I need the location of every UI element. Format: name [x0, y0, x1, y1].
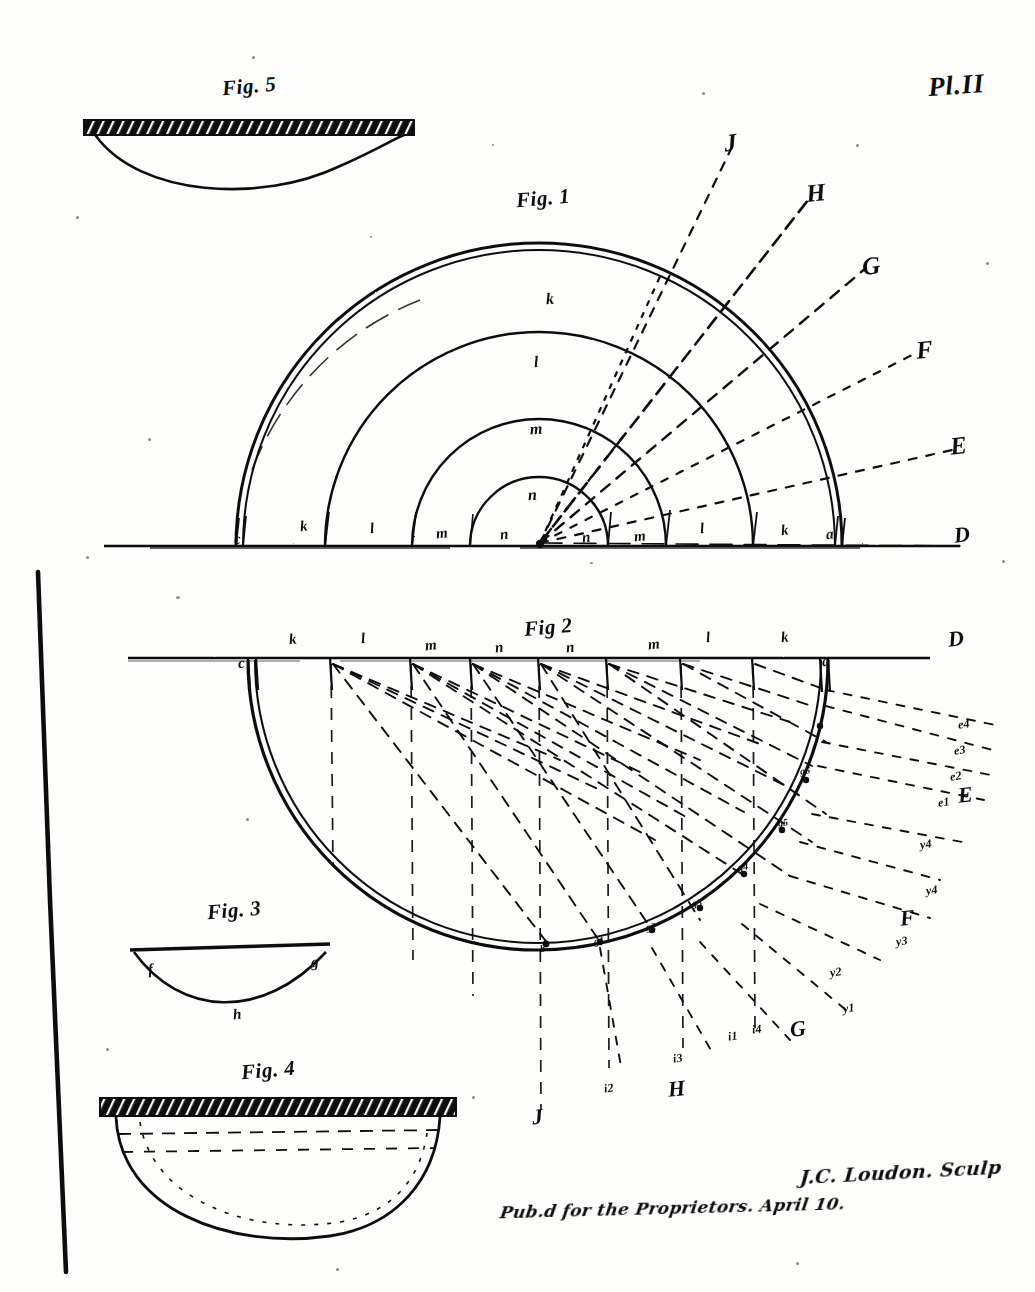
paper-speck — [76, 216, 79, 219]
paper-speck — [176, 596, 180, 599]
plate-edge-rule — [38, 572, 66, 1272]
fig2-point-y1: y1 — [842, 1001, 855, 1014]
fig1-zone-n: n — [527, 487, 537, 504]
fig2-point-y3: y3 — [895, 934, 908, 947]
fig5-title: Fig. 5 — [221, 74, 277, 100]
fig4-title: Fig. 4 — [240, 1058, 296, 1084]
fig2-point-e4: e4 — [957, 717, 970, 730]
fig2-top-c: c — [237, 656, 245, 672]
paper-speck — [86, 556, 89, 559]
fig1-ray-label-h: H — [805, 179, 827, 206]
fig2-point-y2: y2 — [829, 965, 842, 978]
paper-speck — [590, 562, 593, 564]
fig1-zone-m: m — [529, 421, 543, 438]
paper-speck — [702, 92, 705, 95]
fig1-ray-label-e: E — [949, 432, 968, 459]
paper-speck — [246, 818, 249, 821]
paper-speck — [856, 144, 859, 147]
engraved-plate: Pl.II Fig. 5 Fig. 1 k l m n c k l m n n … — [0, 0, 1035, 1292]
fig2-point-y4: y4 — [925, 883, 938, 896]
fig2-ray-label-g: G — [789, 1017, 807, 1041]
paper-speck — [492, 144, 494, 146]
fig2-top-m-right: m — [647, 636, 660, 652]
fig2-arc-point-g3: g3 — [691, 897, 702, 908]
fig2-top-k-right: k — [780, 630, 789, 646]
fig3-drawing — [130, 944, 330, 1002]
fig2-ray-label-f: F — [899, 906, 916, 929]
fig1-base-n-right: n — [581, 530, 591, 546]
fig2-ray-label-j: J — [531, 1105, 544, 1128]
fig2-top-a-right: a — [821, 654, 830, 670]
paper-speck — [370, 236, 372, 238]
fig2-title: Fig 2 — [523, 615, 573, 640]
paper-speck — [106, 1048, 109, 1051]
fig5-drawing — [84, 120, 414, 189]
fig4-drawing — [100, 1098, 456, 1239]
fig2-point-y4-upper: y4 — [919, 837, 932, 850]
fig2-arc-point-g5: g5 — [777, 817, 788, 828]
fig2-point-e2: e2 — [949, 769, 962, 782]
fig3-point-g: g — [310, 955, 319, 971]
fig1-base-c: c — [233, 532, 241, 548]
fig1-ray-label-g: G — [861, 252, 882, 279]
fig2-arc-point-g2: g2 — [645, 921, 656, 932]
paper-speck — [986, 262, 989, 265]
paper-speck — [472, 1096, 475, 1099]
fig1-base-n-left: n — [499, 527, 509, 543]
paper-speck — [1002, 560, 1005, 563]
fig2-ray-label-e: E — [957, 783, 974, 806]
fig1-base-k-left: k — [299, 519, 308, 535]
fig2-point-i1: i1 — [727, 1029, 738, 1042]
fig1-ray-label-j: J — [723, 129, 738, 155]
fig1-ray-label-f: F — [915, 336, 934, 363]
fig2-arc-point-g6: g6 — [799, 765, 810, 776]
fig2-datum-label-d: D — [947, 627, 965, 651]
fig1-base-m-left: m — [435, 525, 448, 541]
fig2-ray-label-h: H — [667, 1077, 686, 1101]
fig2-point-i4: i4 — [751, 1022, 762, 1035]
fig3-point-h: h — [232, 1007, 242, 1023]
fig1-base-a-right: a — [825, 527, 834, 543]
fig1-base-k-right: k — [780, 523, 789, 539]
fig2-point-e1: e1 — [937, 795, 950, 808]
fig2-point-i2: i2 — [603, 1081, 614, 1094]
paper-speck — [148, 438, 151, 441]
fig2-arc-point-g4: g4 — [737, 861, 748, 872]
fig2-top-k-left: k — [288, 632, 297, 648]
fig2-drawing — [128, 658, 1000, 1110]
fig2-point-i3: i3 — [672, 1051, 683, 1064]
fig1-zone-k: k — [545, 291, 554, 308]
fig1-base-m-right: m — [633, 528, 646, 544]
fig2-arc-point-g1: g1 — [593, 935, 604, 946]
paper-speck — [252, 56, 255, 59]
fig2-top-n-right: n — [565, 640, 575, 656]
fig2-top-n-left: n — [494, 640, 504, 656]
paper-speck — [336, 1268, 339, 1271]
fig3-title: Fig. 3 — [206, 898, 262, 924]
fig1-title: Fig. 1 — [515, 186, 571, 212]
fig2-point-e3: e3 — [953, 743, 966, 756]
plate-number: Pl.II — [927, 70, 986, 101]
fig1-ray-label-d: D — [953, 523, 971, 547]
fig2-top-m-left: m — [424, 637, 437, 653]
paper-speck — [796, 1262, 799, 1265]
